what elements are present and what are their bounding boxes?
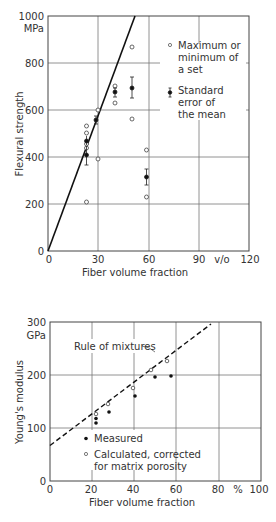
y-tick: 800 — [25, 58, 44, 69]
x-tick: 60 — [143, 254, 156, 265]
bottom-y-ticks: 0 100 200 300 GPa — [27, 317, 46, 487]
legend-open-circle-icon — [168, 43, 171, 46]
calculated-markers — [94, 359, 169, 416]
y-tick: 0 — [38, 246, 44, 257]
x-tick: 20 — [85, 484, 98, 495]
x-unit-label: % — [233, 484, 243, 495]
y-tick: 300 — [27, 317, 46, 328]
bottom-x-ticks: 0 20 40 60 80 % 100 — [47, 484, 269, 495]
top-y-axis-label: Flexural strength — [14, 91, 25, 176]
youngs-modulus-chart: Rule of mixtures Measured Calculated, co… — [14, 317, 269, 508]
y-tick: 1000 — [19, 11, 44, 22]
bottom-legend: Measured Calculated, corrected for matri… — [84, 433, 201, 472]
flexural-strength-chart: Maximum or minimum of a set Standard err… — [14, 11, 260, 278]
y-unit-label: GPa — [27, 330, 46, 341]
y-tick: 0 — [40, 476, 46, 487]
legend-filled-circle-icon — [84, 437, 88, 441]
x-tick: 120 — [240, 254, 259, 265]
legend-err-line1: Standard — [178, 85, 224, 96]
y-tick: 400 — [25, 152, 44, 163]
x-tick: 0 — [46, 254, 52, 265]
y-tick: 200 — [25, 199, 44, 210]
x-tick: 60 — [170, 484, 183, 495]
legend-open-line1: Maximum or — [178, 40, 242, 51]
legend-open-circle-icon — [84, 452, 87, 455]
x-tick: 0 — [47, 484, 53, 495]
legend-calc-line1: Calculated, corrected — [94, 449, 201, 460]
x-tick: 100 — [249, 484, 268, 495]
y-tick: 200 — [27, 370, 46, 381]
x-unit-label: v/o — [214, 254, 229, 265]
legend-measured: Measured — [94, 433, 143, 444]
x-tick: 90 — [193, 254, 206, 265]
legend-calc-line2: for matrix porosity — [94, 461, 187, 472]
x-tick: 40 — [127, 484, 140, 495]
top-mean-markers — [85, 77, 149, 185]
legend-open-line2: minimum of — [178, 52, 239, 63]
x-tick: 80 — [212, 484, 225, 495]
figure: Maximum or minimum of a set Standard err… — [0, 0, 276, 522]
x-tick: 30 — [92, 254, 105, 265]
y-unit-label: MPa — [24, 23, 44, 34]
theoretical-line — [48, 16, 135, 251]
legend-err-line2: error of — [178, 97, 216, 108]
bottom-x-axis-label: Fiber volume fraction — [89, 497, 195, 508]
legend-open-line3: a set — [178, 64, 203, 75]
rule-of-mixtures-label: Rule of mixtures — [74, 341, 156, 352]
bottom-y-axis-label: Young's modulus — [14, 360, 25, 445]
legend-err-line3: the mean — [178, 109, 226, 120]
top-x-ticks: 0 30 60 90 v/o 120 — [46, 254, 260, 265]
top-x-axis-label: Fiber volume fraction — [82, 267, 188, 278]
y-tick: 100 — [27, 423, 46, 434]
y-tick: 600 — [25, 105, 44, 116]
